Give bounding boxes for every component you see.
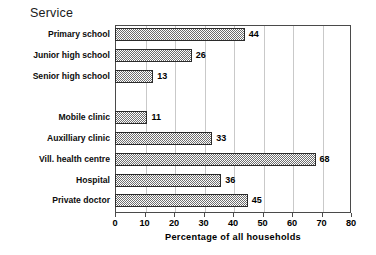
category-label: Vill. health centre [0, 153, 110, 166]
category-label: Auxilliary clinic [0, 132, 110, 145]
bar [115, 153, 316, 166]
bar [115, 111, 147, 124]
x-tick-label: 10 [139, 218, 149, 228]
bar [115, 28, 245, 41]
category-label: Mobile clinic [0, 111, 110, 124]
category-label: Hospital [0, 174, 110, 187]
x-tick-mark [174, 213, 175, 217]
x-tick-mark [322, 213, 323, 217]
bar-value-label: 11 [151, 110, 161, 124]
bar-value-label: 45 [252, 193, 262, 207]
bar-value-label: 13 [157, 69, 167, 83]
bar-value-label: 44 [249, 27, 259, 41]
x-axis-title: Percentage of all households [115, 232, 351, 242]
category-label: Private doctor [0, 194, 110, 207]
x-tick-label: 70 [316, 218, 326, 228]
x-tick-label: 40 [228, 218, 238, 228]
category-label: Junior high school [0, 49, 110, 62]
bar-value-label: 26 [196, 48, 206, 62]
x-tick-mark [263, 213, 264, 217]
chart-title: Service [30, 6, 73, 20]
x-tick-label: 60 [287, 218, 297, 228]
x-tick-label: 50 [257, 218, 267, 228]
bar-value-label: 36 [225, 173, 235, 187]
category-label: Primary school [0, 28, 110, 41]
bars-layer: 4426131133683645 [115, 25, 351, 213]
x-tick-mark [145, 213, 146, 217]
bar [115, 194, 248, 207]
x-tick-mark [115, 213, 116, 217]
bar-value-label: 68 [320, 152, 330, 166]
x-axis: Percentage of all households 01020304050… [115, 213, 351, 255]
bar-value-label: 33 [216, 131, 226, 145]
x-tick-label: 80 [346, 218, 356, 228]
bar [115, 49, 192, 62]
category-label: Senior high school [0, 70, 110, 83]
bar [115, 70, 153, 83]
bar [115, 132, 212, 145]
bar-chart: Service 4426131133683645 Primary schoolJ… [0, 0, 376, 255]
x-tick-mark [351, 213, 352, 217]
x-tick-label: 30 [198, 218, 208, 228]
x-tick-mark [204, 213, 205, 217]
category-labels: Primary schoolJunior high schoolSenior h… [0, 25, 110, 213]
x-tick-label: 20 [169, 218, 179, 228]
x-tick-mark [292, 213, 293, 217]
bar [115, 174, 221, 187]
x-tick-mark [233, 213, 234, 217]
x-tick-label: 0 [112, 218, 117, 228]
